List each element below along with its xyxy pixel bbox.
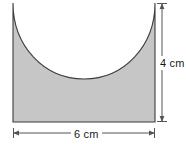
width-dimension-label: 6 cm xyxy=(71,128,102,140)
geometry-figure: 4 cm 6 cm xyxy=(0,0,186,144)
shaded-region-path xyxy=(13,3,155,122)
figure-canvas xyxy=(0,0,186,144)
height-dimension-label: 4 cm xyxy=(158,56,186,70)
